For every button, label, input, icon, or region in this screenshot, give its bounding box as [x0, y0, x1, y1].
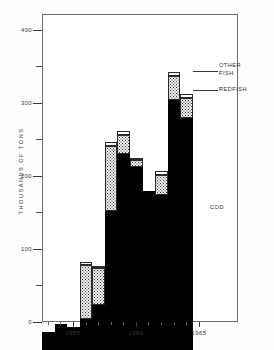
y-tick-400 — [33, 30, 42, 31]
bar-segment-other-fish — [168, 72, 181, 76]
bar-segment-cod — [55, 324, 68, 350]
bar-1959 — [117, 131, 130, 350]
x-tick-minor-1957 — [98, 322, 99, 325]
y-tick-label-200: 200 — [8, 173, 32, 179]
y-tick-300 — [33, 103, 42, 104]
y-tick-100 — [33, 249, 42, 250]
y-tick-label-0: 0 — [8, 319, 32, 325]
bar-segment-redfish — [80, 265, 93, 319]
bar-1961 — [143, 191, 156, 350]
x-tick-minor-1961 — [148, 322, 149, 325]
x-tick-minor-1953 — [48, 322, 49, 325]
x-tick-minor-1958 — [111, 322, 112, 325]
bar-segment-cod — [117, 154, 130, 350]
bar-segment-other-fish — [80, 262, 93, 265]
bar-segment-cod — [92, 305, 105, 350]
bar-segment-cod — [105, 211, 118, 350]
x-tick-minor-1963 — [174, 322, 175, 325]
legend-leader-redfish — [193, 90, 218, 91]
bar-segment-other-fish — [117, 131, 130, 135]
legend-label-cod: COD — [210, 204, 224, 211]
bar-segment-redfish — [130, 160, 143, 167]
legend-label-other-fish-line1: OTHER — [219, 62, 241, 69]
y-tick-0 — [33, 322, 42, 323]
bar-segment-redfish — [105, 146, 118, 212]
x-tick-minor-1962 — [161, 322, 162, 325]
x-tick-minor-1956 — [86, 322, 87, 325]
bar-segment-other-fish — [105, 142, 118, 146]
bar-segment-other-fish — [155, 171, 168, 175]
bar-1963 — [168, 72, 181, 350]
bar-segment-cod — [168, 100, 181, 350]
bar-1964 — [180, 94, 193, 350]
x-tick-1955 — [73, 322, 74, 327]
x-tick-label-1965: 1965 — [192, 330, 207, 336]
y-tick-label-300: 300 — [8, 100, 32, 106]
bar-segment-cod — [42, 332, 55, 350]
bar-segment-redfish — [117, 135, 130, 155]
bar-segment-redfish — [155, 175, 168, 195]
x-tick-label-1960: 1960 — [129, 330, 144, 336]
chart-figure: THOUSANDS OF TONS 400 300 200 100 0 — [0, 0, 274, 350]
bar-segment-other-fish — [130, 158, 143, 160]
bar-1958 — [105, 142, 118, 350]
y-axis-title: THOUSANDS OF TONS — [18, 111, 24, 231]
bar-segment-other-fish — [180, 94, 193, 98]
x-tick-minor-1954 — [60, 322, 61, 325]
bar-segment-redfish — [180, 98, 193, 118]
bar-1956 — [80, 262, 93, 350]
bar-segment-redfish — [92, 268, 105, 305]
legend-label-redfish: REDFISH — [219, 86, 247, 93]
bar-1954 — [55, 324, 68, 350]
y-tick-200 — [33, 176, 42, 177]
legend-label-other-fish-line2: FISH — [219, 70, 234, 77]
bar-segment-cod — [180, 118, 193, 350]
x-tick-minor-1959 — [123, 322, 124, 325]
x-tick-minor-1964 — [186, 322, 187, 325]
bar-segment-cod — [143, 191, 156, 350]
bar-1957 — [92, 266, 105, 350]
y-tick-label-400: 400 — [8, 27, 32, 33]
x-tick-1965 — [199, 322, 200, 327]
bar-segment-other-fish — [92, 266, 105, 268]
bar-1953 — [42, 332, 55, 350]
bar-segment-cod — [155, 195, 168, 350]
y-tick-label-100: 100 — [8, 246, 32, 252]
x-tick-label-1955: 1955 — [66, 330, 81, 336]
x-tick-1960 — [136, 322, 137, 327]
legend-leader-other-fish — [193, 71, 218, 72]
bar-segment-redfish — [168, 76, 181, 100]
